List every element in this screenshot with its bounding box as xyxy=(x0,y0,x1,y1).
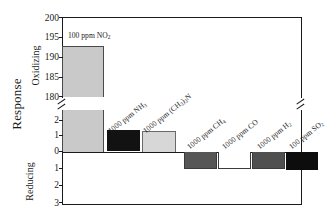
y-axis-tick-labels: 200195190185180210123 xyxy=(28,0,59,220)
y-tick-mark xyxy=(59,96,63,97)
y-tick-mark xyxy=(59,77,63,78)
bar-label-3: 1000 ppm CH4 xyxy=(185,116,227,151)
y-tick-mark xyxy=(59,202,63,203)
bar-3 xyxy=(184,152,217,169)
y-tick-mark xyxy=(59,151,63,152)
y-tick-mark xyxy=(59,57,63,58)
bar-0-lower-segment xyxy=(62,110,104,152)
bar-5 xyxy=(252,152,285,169)
plot-area: 100 ppm NO21000 ppm NH31000 ppm (CH3)3N1… xyxy=(62,17,302,205)
bar-label-5: 1000 ppm H2 xyxy=(255,119,293,151)
y-tick-label: 190 xyxy=(33,53,59,63)
y-tick-label: 185 xyxy=(33,73,59,83)
y-tick-label: 0 xyxy=(33,147,59,157)
bar-6 xyxy=(286,152,318,170)
y-tick-label: 1 xyxy=(33,164,59,174)
y-tick-mark xyxy=(59,135,63,136)
axis-top xyxy=(62,17,302,18)
y-axis-title: Response xyxy=(9,59,25,149)
y-tick-mark xyxy=(59,17,63,18)
bar-label-2: 1000 ppm (CH3)3N xyxy=(141,92,193,136)
y-tick-label: 3 xyxy=(33,199,59,209)
y-tick-mark xyxy=(59,168,63,169)
axis-break-right xyxy=(295,97,309,111)
bar-label-6: 100 ppm SO2 xyxy=(287,119,325,152)
bar-0 xyxy=(62,46,104,97)
axis-break-left xyxy=(57,97,71,111)
y-tick-mark xyxy=(59,185,63,186)
y-tick-label: 2 xyxy=(33,181,59,191)
y-tick-mark xyxy=(59,120,63,121)
chart-figure: Response Oxidizing Reducing 200195190185… xyxy=(0,0,326,220)
y-tick-label: 2 xyxy=(33,116,59,126)
bar-4 xyxy=(218,152,251,169)
axis-right xyxy=(301,17,302,205)
y-tick-label: 200 xyxy=(33,14,59,24)
y-tick-label: 180 xyxy=(33,93,59,103)
y-tick-mark xyxy=(59,37,63,38)
axis-bottom xyxy=(62,204,302,205)
bar-label-0: 100 ppm NO2 xyxy=(68,31,110,40)
y-tick-label: 195 xyxy=(33,33,59,43)
y-tick-label: 1 xyxy=(33,131,59,141)
